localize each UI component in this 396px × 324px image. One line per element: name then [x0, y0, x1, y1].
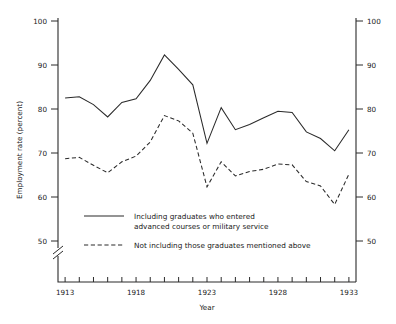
y-tick-label-60: 60 [38, 193, 48, 202]
x-tick-label-1918: 1918 [127, 288, 146, 297]
x-axis-title: Year [198, 303, 214, 312]
y-tick-label-70: 70 [38, 149, 48, 158]
y-tick-label-80: 80 [38, 105, 48, 114]
y-tick-right-label-90: 90 [367, 61, 377, 70]
y-tick-right-label-50: 50 [367, 237, 377, 246]
employment-rate-line-chart: 100 90 80 70 60 50 100 90 80 70 60 50 19… [0, 0, 396, 324]
chart-figure: 100 90 80 70 60 50 100 90 80 70 60 50 19… [0, 0, 396, 324]
legend-label-dashed-line1: Not including those graduates mentioned … [134, 241, 311, 250]
x-tick-label-1913: 1913 [56, 288, 74, 297]
y-axis-title: Employment rate (percent) [15, 101, 24, 199]
right-y-ticks: 100 90 80 70 60 50 [356, 17, 381, 246]
legend-label-solid-line2: advanced courses or military service [134, 222, 269, 231]
legend-label-solid-line1: Including graduates who entered [134, 212, 255, 221]
x-axis-ticks [65, 277, 349, 282]
series-line-including-graduates [65, 55, 349, 151]
x-tick-label-1933: 1933 [340, 288, 358, 297]
y-tick-right-label-60: 60 [367, 193, 377, 202]
x-tick-label-1928: 1928 [269, 288, 288, 297]
y-tick-label-50: 50 [38, 237, 48, 246]
x-tick-label-1923: 1923 [198, 288, 216, 297]
y-tick-right-label-70: 70 [367, 149, 377, 158]
series-line-not-including-graduates [65, 116, 349, 205]
y-tick-right-label-80: 80 [367, 105, 377, 114]
y-tick-right-label-100: 100 [367, 17, 381, 26]
chart-legend: Including graduates who entered advanced… [84, 212, 311, 250]
x-axis-tick-labels: 19131918192319281933 [56, 288, 358, 297]
y-tick-label-100: 100 [33, 17, 47, 26]
y-tick-label-90: 90 [38, 61, 48, 70]
left-y-ticks: 100 90 80 70 60 50 [33, 17, 58, 246]
